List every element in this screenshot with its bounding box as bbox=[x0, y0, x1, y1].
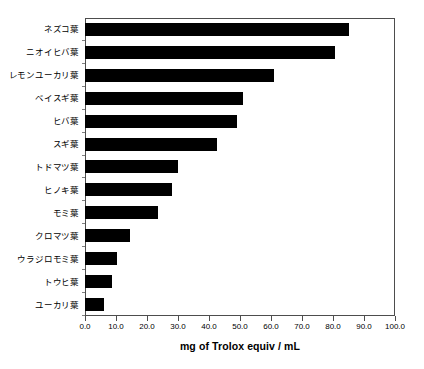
bar bbox=[85, 298, 104, 311]
bar bbox=[85, 160, 178, 173]
x-axis-tick-label: 70.0 bbox=[294, 321, 310, 332]
category-label: ヒバ葉 bbox=[0, 116, 85, 126]
bar-track bbox=[85, 18, 395, 41]
bar-track bbox=[85, 64, 395, 87]
bar-track bbox=[85, 224, 395, 247]
chart-row: トウヒ葉 bbox=[0, 270, 424, 293]
category-label: スギ葉 bbox=[0, 139, 85, 149]
x-axis-tick-label: 40.0 bbox=[201, 321, 217, 332]
bar bbox=[85, 115, 237, 128]
category-label: ベイスギ葉 bbox=[0, 93, 85, 103]
bar bbox=[85, 46, 335, 59]
bar bbox=[85, 229, 130, 242]
chart-row: トドマツ葉 bbox=[0, 156, 424, 179]
chart-row: クロマツ葉 bbox=[0, 224, 424, 247]
category-label: モミ葉 bbox=[0, 208, 85, 218]
x-axis-tick-labels: 0.010.020.030.040.050.060.070.080.090.01… bbox=[0, 321, 424, 335]
bar-track bbox=[85, 247, 395, 270]
x-axis-tick-label: 10.0 bbox=[108, 321, 124, 332]
x-axis-tick-label: 30.0 bbox=[170, 321, 186, 332]
chart-row: ネズコ葉 bbox=[0, 18, 424, 41]
x-axis-tick-label: 90.0 bbox=[356, 321, 372, 332]
category-label: ヒノキ葉 bbox=[0, 185, 85, 195]
x-axis-tick-label: 0.0 bbox=[79, 321, 90, 332]
bar-track bbox=[85, 178, 395, 201]
bar-track bbox=[85, 41, 395, 64]
x-axis-tick-label: 20.0 bbox=[139, 321, 155, 332]
chart-row: ベイスギ葉 bbox=[0, 87, 424, 110]
bar bbox=[85, 138, 217, 151]
category-label: クロマツ葉 bbox=[0, 231, 85, 241]
chart-row: ユーカリ葉 bbox=[0, 293, 424, 316]
chart-rows: ネズコ葉ニオイヒバ葉レモンユーカリ葉ベイスギ葉ヒバ葉スギ葉トドマツ葉ヒノキ葉モミ… bbox=[0, 18, 424, 316]
bar-track bbox=[85, 293, 395, 316]
chart-row: ヒバ葉 bbox=[0, 110, 424, 133]
bar-track bbox=[85, 156, 395, 179]
chart-row: スギ葉 bbox=[0, 133, 424, 156]
chart-row: ヒノキ葉 bbox=[0, 178, 424, 201]
category-label: トウヒ葉 bbox=[0, 277, 85, 287]
bar bbox=[85, 275, 112, 288]
x-axis-tick-label: 60.0 bbox=[263, 321, 279, 332]
chart-row: ニオイヒバ葉 bbox=[0, 41, 424, 64]
category-label: ウラジロモミ葉 bbox=[0, 254, 85, 264]
bar-track bbox=[85, 201, 395, 224]
bar bbox=[85, 92, 243, 105]
bar-track bbox=[85, 270, 395, 293]
category-label: レモンユーカリ葉 bbox=[0, 70, 85, 80]
category-label: ニオイヒバ葉 bbox=[0, 47, 85, 57]
bar bbox=[85, 252, 117, 265]
category-label: ネズコ葉 bbox=[0, 24, 85, 34]
x-axis-title: mg of Trolox equiv / mL bbox=[85, 340, 395, 352]
bar-track bbox=[85, 133, 395, 156]
bar bbox=[85, 206, 158, 219]
chart-row: レモンユーカリ葉 bbox=[0, 64, 424, 87]
bar bbox=[85, 183, 172, 196]
category-label: ユーカリ葉 bbox=[0, 300, 85, 310]
x-axis-tick-label: 80.0 bbox=[325, 321, 341, 332]
bar-chart: ネズコ葉ニオイヒバ葉レモンユーカリ葉ベイスギ葉ヒバ葉スギ葉トドマツ葉ヒノキ葉モミ… bbox=[0, 0, 424, 369]
bar bbox=[85, 69, 274, 82]
chart-row: モミ葉 bbox=[0, 201, 424, 224]
x-axis-tick-label: 100.0 bbox=[385, 321, 405, 332]
chart-row: ウラジロモミ葉 bbox=[0, 247, 424, 270]
category-label: トドマツ葉 bbox=[0, 162, 85, 172]
bar-track bbox=[85, 110, 395, 133]
bar-track bbox=[85, 87, 395, 110]
x-axis-tick-label: 50.0 bbox=[232, 321, 248, 332]
bar bbox=[85, 23, 349, 36]
